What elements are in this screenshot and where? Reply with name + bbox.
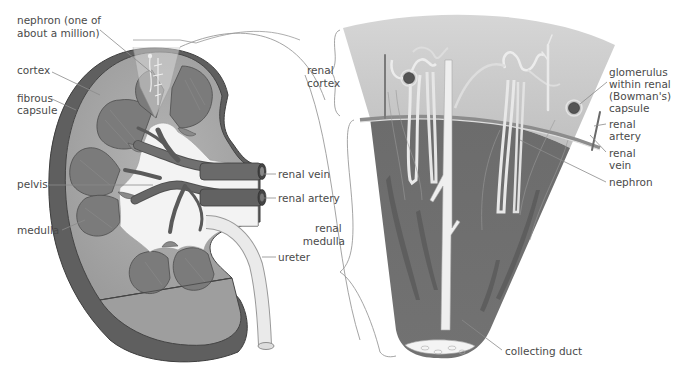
label-fibrous-capsule: fibrous capsule xyxy=(17,92,57,116)
label-pelvis: pelvis xyxy=(17,178,48,190)
kidney-cross-section xyxy=(49,47,274,362)
label-nephron-detail: nephron xyxy=(609,176,653,188)
label-glomerulus: glomerulus within renal (Bowman's) capsu… xyxy=(609,66,674,114)
connector-curve xyxy=(305,75,360,340)
label-ureter: ureter xyxy=(278,251,311,263)
label-medulla: medulla xyxy=(17,224,59,236)
label-renal-medulla: renal medulla xyxy=(303,222,345,247)
label-cortex: cortex xyxy=(17,64,50,76)
label-renal-vein-detail: renal vein xyxy=(609,147,639,171)
label-renal-cortex: renal cortex xyxy=(307,64,340,89)
label-renal-artery: renal artery xyxy=(278,192,340,204)
glomerulus-left xyxy=(404,73,415,84)
label-collecting-duct: collecting duct xyxy=(505,345,582,357)
label-renal-vein: renal vein xyxy=(278,168,330,180)
glomerulus-right xyxy=(569,103,580,114)
renal-pyramid-detail xyxy=(343,15,615,359)
label-nephron: nephron (one of about a million) xyxy=(17,14,104,39)
kidney-diagram: nephron (one of about a million) cortex … xyxy=(0,0,675,368)
label-renal-artery-detail: renal artery xyxy=(609,118,641,142)
